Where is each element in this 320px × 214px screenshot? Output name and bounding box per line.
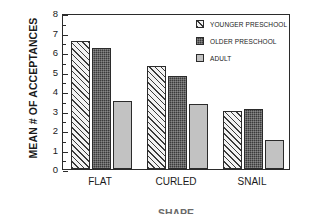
y-tick-mark <box>63 35 68 36</box>
y-tick-mark-minor <box>63 103 66 104</box>
y-tick-mark <box>63 113 68 114</box>
x-axis-tick-labels: FLATCURLEDSNAIL <box>62 176 290 190</box>
y-tick-label: 2 <box>44 126 58 136</box>
bar <box>168 76 187 169</box>
x-axis-title: SHAPE <box>62 207 290 214</box>
legend-label: YOUNGER PRESCHOOL <box>210 21 287 28</box>
legend-swatch-icon <box>196 54 204 62</box>
y-tick-label: 5 <box>44 68 58 78</box>
bar <box>244 109 263 169</box>
y-tick-mark-minor <box>63 83 66 84</box>
legend-item: YOUNGER PRESCHOOL <box>196 18 287 30</box>
y-tick-label: 4 <box>44 87 58 97</box>
y-tick-mark <box>63 171 68 172</box>
y-tick-label: 0 <box>44 165 58 175</box>
x-tick-label: FLAT <box>88 176 112 187</box>
y-tick-label: 6 <box>44 48 58 58</box>
bar <box>92 48 111 169</box>
bar <box>71 41 90 169</box>
legend-item: OLDER PRESCHOOL <box>196 35 287 47</box>
y-tick-mark-minor <box>63 25 66 26</box>
legend-label: OLDER PRESCHOOL <box>210 38 277 45</box>
legend-label: ADULT <box>210 55 231 62</box>
y-tick-mark <box>63 152 68 153</box>
y-tick-label: 7 <box>44 29 58 39</box>
bar-group <box>71 15 132 169</box>
bar <box>113 101 132 169</box>
y-tick-mark-minor <box>63 142 66 143</box>
y-axis-title: MEAN # OF ACCEPTANCES <box>27 0 39 183</box>
y-tick-label: 8 <box>44 9 58 19</box>
bar <box>223 111 242 170</box>
y-tick-mark <box>63 132 68 133</box>
x-tick-label: SNAIL <box>238 176 267 187</box>
chart-legend: YOUNGER PRESCHOOLOLDER PRESCHOOLADULT <box>196 18 287 69</box>
y-tick-mark <box>63 93 68 94</box>
y-tick-mark-minor <box>63 64 66 65</box>
y-tick-mark <box>63 15 68 16</box>
y-tick-label: 3 <box>44 107 58 117</box>
legend-swatch-icon <box>196 37 204 45</box>
bar <box>189 104 208 169</box>
y-tick-mark-minor <box>63 44 66 45</box>
y-tick-mark <box>63 54 68 55</box>
bar <box>147 66 166 169</box>
bar <box>265 140 284 169</box>
y-tick-mark-minor <box>63 161 66 162</box>
y-tick-label: 1 <box>44 146 58 156</box>
y-tick-mark <box>63 74 68 75</box>
legend-item: ADULT <box>196 52 287 64</box>
x-tick-label: CURLED <box>155 176 196 187</box>
y-tick-mark-minor <box>63 122 66 123</box>
y-axis-tick-labels: 012345678 <box>44 14 58 170</box>
legend-swatch-icon <box>196 20 204 28</box>
